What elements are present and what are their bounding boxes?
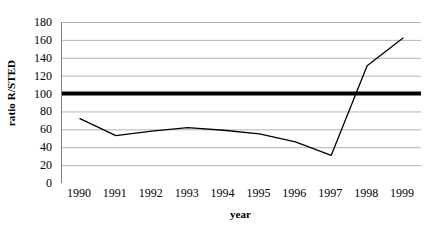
x-tick-label-1990: 1990 (67, 186, 91, 200)
data-series-group (80, 38, 403, 155)
y-tick-label-80: 80 (40, 105, 52, 117)
y-tick-label-180: 180 (34, 16, 52, 28)
data-line-0 (80, 38, 403, 155)
x-tick-label-1996: 1996 (282, 186, 306, 200)
x-axis-title: year (61, 208, 420, 220)
plot-area (61, 22, 421, 183)
y-axis-tick-labels: 180160140120100806040200 (22, 0, 56, 236)
y-tick-label-100: 100 (34, 88, 52, 100)
y-axis-title: ratio R/STED (0, 0, 22, 186)
x-tick-label-1991: 1991 (103, 186, 127, 200)
x-tick-label-1993: 1993 (175, 186, 199, 200)
y-tick-label-20: 20 (40, 159, 52, 171)
series-canvas (62, 22, 421, 183)
y-tick-label-120: 120 (34, 70, 52, 82)
y-tick-label-140: 140 (34, 52, 52, 64)
y-axis-title-text: ratio R/STED (5, 60, 17, 126)
x-tick-label-1995: 1995 (246, 186, 270, 200)
x-tick-label-1994: 1994 (211, 186, 235, 200)
x-tick-label-1999: 1999 (390, 186, 414, 200)
chart-figure: ratio R/STED 180160140120100806040200 19… (0, 0, 436, 236)
x-tick-label-1998: 1998 (354, 186, 378, 200)
y-tick-label-0: 0 (46, 177, 52, 189)
gridline-group (62, 23, 421, 184)
x-axis-tick-labels: 1990199119921993199419951996199719981999 (61, 186, 420, 204)
y-tick-label-60: 60 (40, 123, 52, 135)
y-tick-label-160: 160 (34, 34, 52, 46)
x-tick-label-1997: 1997 (318, 186, 342, 200)
x-tick-label-1992: 1992 (139, 186, 163, 200)
y-tick-label-40: 40 (40, 141, 52, 153)
